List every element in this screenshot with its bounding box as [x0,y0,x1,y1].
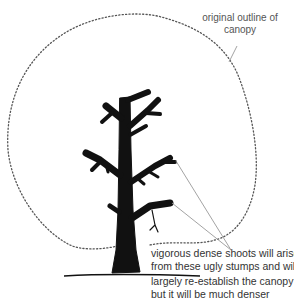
pollarded-tree [86,92,175,273]
canopy-label-line-2: canopy [190,24,290,36]
shoots-line-4: but it will be much denser [151,288,294,301]
leader-lines [172,46,237,250]
shoots-line-3: largely re-establish the canopy [151,275,294,288]
shoots-line-1: vigorous dense shoots will arise [151,247,294,260]
canopy-label-line-1: original outline of [190,12,290,24]
shoots-annotation: vigorous dense shoots will arise from th… [151,247,294,300]
shoots-line-2: from these ugly stumps and will [151,260,294,273]
canopy-outline-label: original outline of canopy [190,12,290,36]
